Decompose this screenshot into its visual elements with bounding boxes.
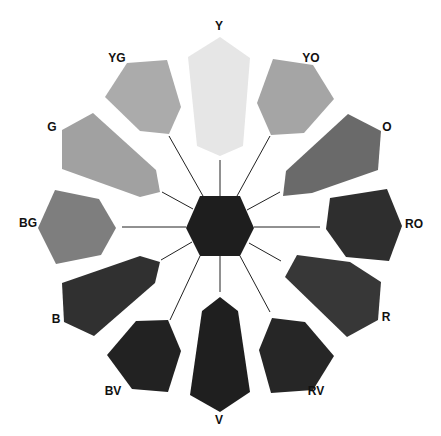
center-hexagon (186, 196, 254, 256)
label-yo: YO (302, 51, 319, 65)
swatch-ro (326, 189, 402, 261)
swatch-v (190, 297, 250, 412)
label-v: V (215, 413, 223, 427)
spoke-line-rv (240, 256, 270, 312)
spoke-line-r (249, 243, 281, 261)
label-g: G (47, 120, 56, 134)
label-ro: RO (405, 217, 423, 231)
label-rv: RV (308, 384, 324, 398)
spoke-line-bv (170, 256, 200, 320)
label-r: R (382, 310, 391, 324)
swatch-y (188, 37, 250, 156)
swatch-yo (257, 59, 334, 135)
swatch-bg (38, 190, 116, 264)
segment-bg: BG (19, 190, 116, 264)
spoke-line-o (247, 192, 280, 210)
label-bg: BG (19, 216, 37, 230)
segment-v: V (190, 297, 250, 427)
spoke-line-b (161, 242, 192, 260)
swatch-yg (105, 60, 181, 134)
segment-ro: RO (326, 189, 423, 261)
segment-yo: YO (257, 51, 334, 135)
label-yg: YG (108, 51, 125, 65)
label-o: O (382, 120, 391, 134)
segment-yg: YG (105, 51, 181, 134)
segment-bv: BV (105, 320, 181, 398)
swatch-rv (259, 318, 334, 393)
spoke-line-g (162, 192, 193, 209)
label-y: Y (215, 19, 223, 33)
label-bv: BV (105, 384, 122, 398)
segment-rv: RV (259, 318, 334, 398)
color-wheel-diagram: YYOORORRVVBVBBGGYG (0, 0, 441, 436)
swatch-bv (107, 320, 181, 392)
label-b: B (52, 312, 61, 326)
segment-y: Y (188, 19, 250, 156)
color-wheel-svg: YYOORORRVVBVBBGGYG (0, 0, 441, 436)
